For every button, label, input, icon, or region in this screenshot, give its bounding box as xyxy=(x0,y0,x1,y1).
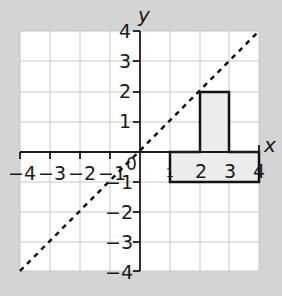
y-tick-neg4: −4 xyxy=(105,261,133,283)
coordinate-grid-diagram: y x −4 −3 −2 −1 1 2 3 4 0 4 3 2 1 −1 −2 … xyxy=(0,0,282,296)
x-tick-neg2: −2 xyxy=(68,162,96,184)
x-tick-2: 2 xyxy=(195,160,207,182)
y-tick-neg2: −2 xyxy=(105,201,133,223)
x-tick-neg3: −3 xyxy=(38,162,66,184)
y-tick-4: 4 xyxy=(119,20,131,42)
y-tick-neg1: −1 xyxy=(105,171,133,193)
y-tick-2: 2 xyxy=(119,80,131,102)
x-tick-3: 3 xyxy=(224,160,236,182)
x-axis-label: x xyxy=(263,133,276,157)
x-tick-neg4: −4 xyxy=(8,162,36,184)
y-tick-3: 3 xyxy=(119,50,131,72)
y-tick-neg3: −3 xyxy=(105,231,133,253)
x-tick-1: 1 xyxy=(166,165,174,180)
y-tick-1: 1 xyxy=(119,110,131,132)
y-axis-label: y xyxy=(137,3,151,27)
x-tick-4: 4 xyxy=(253,160,265,182)
